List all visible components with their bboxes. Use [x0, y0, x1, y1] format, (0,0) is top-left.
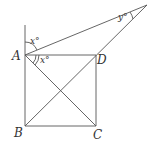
- point-label-c: C: [93, 128, 102, 142]
- angle-label-y: y°: [117, 12, 128, 22]
- line-a-to-apex: [25, 5, 147, 55]
- diagonal-bd-extended: [25, 5, 147, 126]
- angle-arc-y: [130, 12, 133, 19]
- point-label-b: B: [13, 126, 23, 140]
- angle-arc-x-lower-2: [33, 55, 36, 63]
- angle-label-x-upper: x°: [30, 36, 40, 46]
- point-label-d: D: [96, 53, 107, 67]
- geometry-diagram: A B C D x° x° y°: [0, 0, 155, 150]
- point-label-a: A: [11, 49, 21, 63]
- angle-label-x-lower: x°: [40, 55, 50, 65]
